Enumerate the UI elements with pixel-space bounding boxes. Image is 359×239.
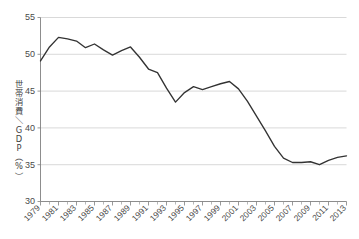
y-tick-label-35: 35 (25, 160, 35, 170)
x-tick-label-1985: 1985 (76, 203, 96, 223)
chart-container: 303540455055 197919811983198519871989199… (0, 0, 359, 239)
x-tick-label-1999: 1999 (202, 203, 222, 223)
x-axis-tick-labels: 1979198119831985198719891991199319951997… (22, 203, 348, 223)
y-tick-label-55: 55 (25, 12, 35, 22)
data-series (41, 37, 347, 164)
x-tick-label-1993: 1993 (148, 203, 168, 223)
y-axis-title-char-8: （ (14, 153, 24, 161)
x-tick-label-1981: 1981 (40, 203, 60, 223)
x-tick-label-1997: 1997 (184, 203, 204, 223)
x-tick-label-2003: 2003 (238, 203, 258, 223)
y-tick-label-45: 45 (25, 86, 35, 96)
x-tick-label-2005: 2005 (256, 203, 276, 223)
series-line-0 (41, 37, 347, 164)
y-axis-title-char-7: P (16, 143, 21, 153)
x-tick-label-1991: 1991 (130, 203, 150, 223)
y-axis-title: 世帯消費／GDP（%） (14, 79, 24, 180)
x-tick-label-1989: 1989 (112, 203, 132, 223)
y-axis-title-char-9: % (15, 161, 23, 171)
x-tick-label-2011: 2011 (310, 203, 330, 223)
line-chart: 303540455055 197919811983198519871989199… (0, 0, 359, 239)
x-tick-label-1995: 1995 (166, 203, 186, 223)
y-axis-title-char-3: 費 (15, 106, 23, 116)
y-tick-label-50: 50 (25, 49, 35, 59)
x-tick-label-2013: 2013 (328, 203, 348, 223)
x-tick-label-1983: 1983 (58, 203, 78, 223)
y-axis-title-char-10: ） (14, 172, 24, 180)
x-tick-label-2001: 2001 (220, 203, 240, 223)
x-tick-label-1987: 1987 (94, 203, 114, 223)
gridlines (41, 18, 347, 165)
x-tick-label-2009: 2009 (292, 203, 312, 223)
y-tick-label-40: 40 (25, 123, 35, 133)
x-tick-label-2007: 2007 (274, 203, 294, 223)
y-axis-tick-labels: 303540455055 (25, 12, 35, 206)
